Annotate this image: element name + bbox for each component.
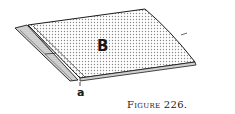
- label-a: a: [77, 86, 84, 99]
- sheet-b: [28, 9, 196, 81]
- figure-illustration: B a Figure 226.: [0, 0, 235, 114]
- figure-caption: Figure 226.: [127, 99, 187, 110]
- label-b: B: [97, 37, 108, 55]
- folded-sheet-drawing: [0, 0, 235, 114]
- tick-mark: [181, 33, 187, 35]
